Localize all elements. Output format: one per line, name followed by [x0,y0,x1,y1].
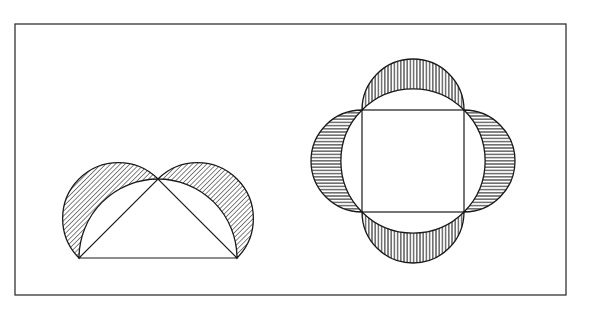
lune-bottom [362,212,464,263]
right-figure [311,59,515,263]
left-figure [63,163,254,258]
lune-left [311,110,362,212]
inscribed-square [362,110,464,212]
figure-frame [15,24,566,295]
lunes-diagram [0,0,590,309]
lune-left-ac [63,163,158,258]
lune-left-cb [158,163,253,258]
lune-top [362,59,464,110]
lune-right [464,110,515,212]
